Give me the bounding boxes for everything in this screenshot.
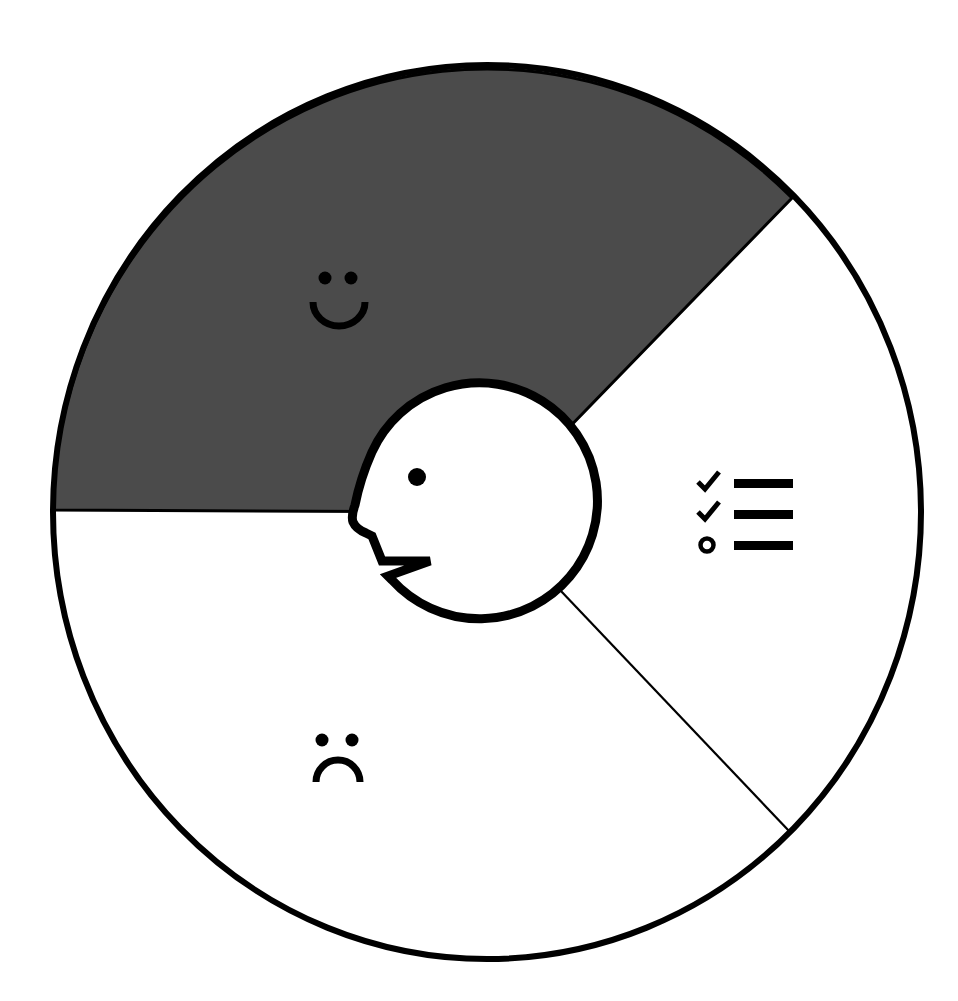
speaking-head-icon — [352, 383, 597, 619]
checklist-line — [734, 510, 793, 519]
eye-icon — [408, 468, 426, 486]
head-outline — [352, 383, 597, 619]
feedback-wheel-diagram — [0, 0, 958, 1001]
diagram-canvas: Feedback wheel — [0, 0, 958, 1001]
checklist-line — [734, 479, 793, 488]
checklist-line — [734, 541, 793, 550]
